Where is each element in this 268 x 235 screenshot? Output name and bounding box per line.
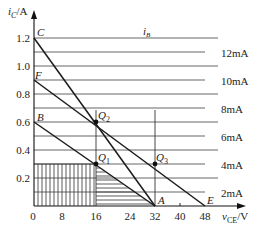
svg-text:1.2: 1.2 (16, 32, 30, 44)
svg-text:40: 40 (175, 210, 187, 222)
svg-text:48: 48 (200, 210, 212, 222)
transistor-load-line-chart: iC/A 0.2 0.4 0.6 0.8 1.0 1.2 0 8 16 24 3… (0, 0, 268, 235)
y-axis-arrow-icon (31, 10, 37, 19)
svg-text:6mA: 6mA (221, 131, 243, 143)
x-tick-labels: 0 8 16 24 32 40 48 (30, 210, 211, 222)
svg-text:C: C (37, 26, 45, 38)
svg-text:4mA: 4mA (221, 159, 243, 171)
y-tick-labels: 0.2 0.4 0.6 0.8 1.0 1.2 (16, 32, 30, 184)
svg-text:0.8: 0.8 (16, 88, 30, 100)
svg-text:0: 0 (30, 210, 36, 222)
svg-text:F: F (34, 69, 42, 81)
svg-text:8mA: 8mA (221, 103, 243, 115)
svg-text:0.2: 0.2 (16, 172, 30, 184)
svg-text:1.0: 1.0 (16, 60, 30, 72)
vertical-hatch-region (34, 164, 96, 206)
y-axis-label: iC/A (8, 5, 27, 20)
x-axis-label: vCE/V (222, 210, 248, 225)
axes (34, 16, 240, 206)
svg-text:0.4: 0.4 (16, 144, 30, 156)
svg-text:A: A (157, 194, 165, 206)
point-labels: C F B A E Q2 Q1 Q3 (34, 26, 214, 206)
x-axis-arrow-icon (237, 203, 246, 209)
svg-text:16: 16 (91, 210, 103, 222)
svg-text:E: E (206, 194, 214, 206)
load-line-FE (34, 80, 205, 206)
svg-text:12mA: 12mA (221, 47, 249, 59)
curve-labels: 2mA 4mA 6mA 8mA 10mA 12mA (221, 47, 249, 199)
ib-label: iB (143, 25, 151, 39)
svg-text:8: 8 (59, 210, 65, 222)
svg-text:32: 32 (150, 210, 161, 222)
svg-text:0.6: 0.6 (16, 116, 30, 128)
svg-text:B: B (37, 111, 44, 123)
svg-text:10mA: 10mA (221, 75, 249, 87)
svg-text:24: 24 (125, 210, 137, 222)
svg-text:2mA: 2mA (221, 187, 243, 199)
